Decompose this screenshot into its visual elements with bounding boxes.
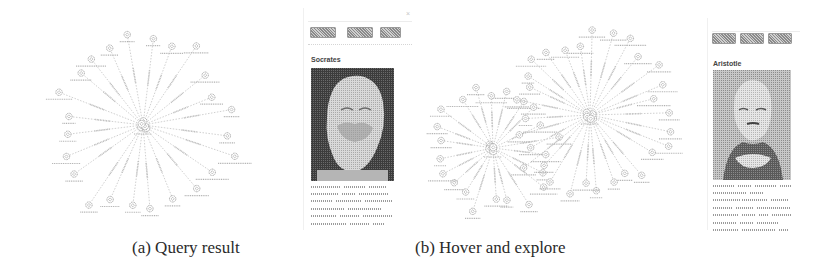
graph-svg-b xyxy=(425,20,690,225)
divider xyxy=(308,44,412,45)
entity-title: Aristotle xyxy=(713,60,741,67)
knowledge-graph-canvas-b[interactable] xyxy=(425,20,690,225)
subfigure-b: Aristotle xyxy=(420,0,829,230)
search-field-a[interactable]: × xyxy=(308,11,412,22)
caption-b: (b) Hover and explore xyxy=(415,238,566,258)
bust-icon xyxy=(713,70,791,180)
action-button-3[interactable] xyxy=(768,33,792,44)
knowledge-graph-canvas-a[interactable] xyxy=(30,20,260,230)
portrait-image-aristotle xyxy=(713,70,791,180)
bust-icon xyxy=(311,68,394,181)
action-button-1[interactable] xyxy=(712,33,736,44)
entity-title: Socrates xyxy=(311,56,341,63)
info-side-panel-b: Aristotle xyxy=(707,18,804,230)
entity-description xyxy=(311,183,397,227)
action-button-3[interactable] xyxy=(380,27,401,38)
subfigure-a: × Socrates xyxy=(0,0,415,230)
caption-a: (a) Query result xyxy=(132,238,240,258)
graph-svg-a xyxy=(30,20,260,230)
entity-description xyxy=(713,182,797,234)
action-button-2[interactable] xyxy=(740,33,764,44)
action-button-1[interactable] xyxy=(310,27,336,38)
search-field-b[interactable] xyxy=(712,21,800,32)
action-button-2[interactable] xyxy=(347,27,373,38)
portrait-image-socrates xyxy=(311,68,394,181)
close-icon[interactable]: × xyxy=(406,10,410,17)
info-side-panel-a: × Socrates xyxy=(303,8,416,230)
